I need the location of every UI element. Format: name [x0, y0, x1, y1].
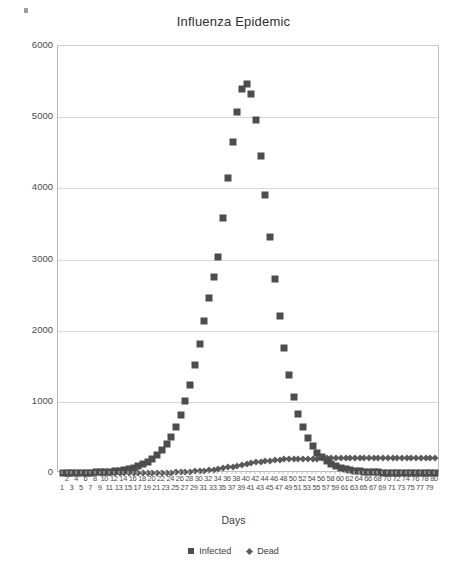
y-axis-tick-label: 4000 [3, 181, 53, 192]
x-axis-tick-label: 31 [199, 483, 207, 492]
data-point-infected [215, 254, 222, 261]
data-point-infected [224, 175, 231, 182]
x-axis-tick-mark [62, 471, 63, 474]
x-axis-tick-mark [80, 471, 81, 474]
x-axis-tick-label: 40 [242, 474, 250, 483]
data-point-infected [191, 362, 198, 369]
data-point-infected [173, 424, 180, 431]
x-axis-tick-label: 56 [317, 474, 325, 483]
legend-item-dead: Dead [247, 546, 279, 556]
x-axis-tick-label: 12 [110, 474, 118, 483]
x-axis-tick-label: 26 [176, 474, 184, 483]
data-point-infected [304, 435, 311, 442]
data-point-infected [253, 117, 260, 124]
x-axis-tick-label: 70 [383, 474, 391, 483]
y-axis-tick-label: 5000 [3, 110, 53, 121]
chart-root: Influenza Epidemic 010002000300040005000… [0, 0, 467, 571]
x-axis-tick-label: 50 [289, 474, 297, 483]
x-axis-tick-label: 34 [214, 474, 222, 483]
x-axis-tick-label: 24 [166, 474, 174, 483]
x-axis-tick-label: 61 [341, 483, 349, 492]
x-axis-tick-label: 21 [152, 483, 160, 492]
data-point-infected [243, 81, 250, 88]
x-axis-tick-label: 67 [369, 483, 377, 492]
x-axis-tick-label: 28 [185, 474, 193, 483]
y-axis-tick-label: 3000 [3, 253, 53, 264]
x-axis-tick-label: 11 [105, 483, 112, 492]
x-axis-tick-label: 18 [138, 474, 146, 483]
y-axis-tick-label: 6000 [3, 39, 53, 50]
data-point-infected [234, 109, 241, 116]
data-point-infected [248, 90, 255, 97]
x-axis-tick-mark [71, 471, 72, 474]
x-axis-tick-label: 2 [65, 474, 69, 483]
x-axis-tick-label: 71 [388, 483, 396, 492]
x-axis-tick-label: 42 [251, 474, 259, 483]
data-point-infected [281, 345, 288, 352]
x-axis-tick-label: 41 [246, 483, 254, 492]
x-axis-tick-label: 57 [322, 483, 330, 492]
chart-title: Influenza Epidemic [0, 14, 467, 29]
x-axis-tick-label: 14 [119, 474, 127, 483]
x-axis-tick-label: 5 [79, 483, 83, 492]
x-axis-tick-label: 44 [261, 474, 269, 483]
x-axis-tick-label: 27 [181, 483, 189, 492]
gridline [58, 402, 438, 403]
x-axis-tick-label: 39 [237, 483, 245, 492]
data-point-dead [431, 455, 438, 462]
x-axis-tick-label: 23 [162, 483, 170, 492]
x-axis-tick-labels: 1234567891011121314151617181920212223242… [57, 474, 439, 498]
data-point-infected [290, 393, 297, 400]
legend-label-infected: Infected [199, 546, 231, 556]
data-point-infected [300, 424, 307, 431]
x-axis-tick-label: 30 [195, 474, 203, 483]
data-point-infected [205, 294, 212, 301]
x-axis-tick-label: 63 [350, 483, 358, 492]
x-axis-tick-label: 10 [101, 474, 109, 483]
data-point-infected [257, 152, 264, 159]
x-axis-tick-mark [90, 471, 91, 474]
x-axis-tick-label: 38 [232, 474, 240, 483]
x-axis-tick-label: 58 [327, 474, 335, 483]
legend-item-infected: Infected [188, 546, 231, 556]
gridline [58, 331, 438, 332]
data-point-infected [163, 441, 170, 448]
x-axis-tick-label: 6 [84, 474, 88, 483]
x-axis-tick-label: 74 [402, 474, 410, 483]
data-point-infected [267, 233, 274, 240]
x-axis-tick-label: 62 [345, 474, 353, 483]
x-axis-tick-label: 49 [284, 483, 292, 492]
x-axis-tick-label: 37 [228, 483, 236, 492]
x-axis-tick-label: 59 [331, 483, 339, 492]
x-axis-tick-label: 54 [308, 474, 316, 483]
gridline [58, 188, 438, 189]
x-axis-tick-label: 3 [69, 483, 73, 492]
y-axis-tick-label: 1000 [3, 395, 53, 406]
data-point-infected [229, 139, 236, 146]
x-axis-title: Days [0, 514, 467, 526]
x-axis-tick-label: 69 [378, 483, 386, 492]
x-axis-tick-label: 43 [256, 483, 264, 492]
x-axis-tick-label: 17 [133, 483, 141, 492]
x-axis-tick-label: 45 [265, 483, 273, 492]
data-point-infected [295, 410, 302, 417]
x-axis-tick-label: 51 [294, 483, 302, 492]
x-axis-tick-label: 73 [397, 483, 405, 492]
x-axis-tick-label: 80 [430, 474, 438, 483]
data-point-infected [210, 273, 217, 280]
data-point-infected [196, 340, 203, 347]
x-axis-tick-label: 8 [93, 474, 97, 483]
x-axis-tick-label: 22 [157, 474, 165, 483]
data-point-infected [182, 398, 189, 405]
x-axis-tick-label: 19 [143, 483, 151, 492]
x-axis-tick-label: 32 [204, 474, 212, 483]
x-axis-tick-label: 35 [218, 483, 226, 492]
x-axis-tick-label: 52 [298, 474, 306, 483]
data-point-infected [168, 433, 175, 440]
x-axis-tick-label: 1 [60, 483, 64, 492]
data-point-infected [286, 371, 293, 378]
x-axis-tick-label: 15 [124, 483, 132, 492]
x-axis-tick-label: 55 [312, 483, 320, 492]
data-point-infected [158, 447, 165, 454]
gridline [58, 260, 438, 261]
